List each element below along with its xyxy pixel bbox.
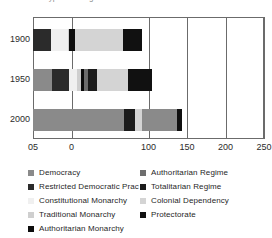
x-axis: 050100150200250 <box>0 142 272 156</box>
legend-item-label: Colonial Dependency <box>151 196 229 205</box>
x-axis-tick-label: 200 <box>218 142 233 152</box>
x-axis-tick-label: 100 <box>141 142 156 152</box>
legend-column-right: Authoritarian RegimeTotalitarian RegimeC… <box>140 166 270 222</box>
legend-item-label: Authoritarian Monarchy <box>39 224 124 233</box>
legend-swatch-icon <box>28 170 34 176</box>
y-axis-tick-label: 1950 <box>0 74 30 84</box>
y-axis-tick-label: 1900 <box>0 34 30 44</box>
legend-item[interactable]: Totalitarian Regime <box>140 180 270 193</box>
bar-segment[interactable] <box>142 109 177 131</box>
bar-segment[interactable] <box>124 109 136 131</box>
legend-item[interactable]: Restricted Democratic Prac <box>28 180 146 193</box>
bar-segment[interactable] <box>88 69 96 91</box>
legend-item-label: Authoritarian Regime <box>151 168 228 177</box>
x-axis-tick-label: 0 <box>69 142 74 152</box>
bar-segment[interactable] <box>51 29 68 51</box>
legend-item[interactable]: Colonial Dependency <box>140 194 270 207</box>
legend-item-label: Traditional Monarchy <box>39 210 115 219</box>
legend-item-label: Restricted Democratic Prac <box>39 182 139 191</box>
chart-figure: Types of Regimes 190019502000 0501001502… <box>0 0 272 238</box>
plot-area <box>33 17 264 139</box>
legend-column-left: DemocracyRestricted Democratic PracConst… <box>28 166 146 236</box>
legend-swatch-icon <box>140 170 146 176</box>
bar-segment[interactable] <box>75 29 123 51</box>
legend-item[interactable]: Authoritarian Regime <box>140 166 270 179</box>
legend-item-label: Democracy <box>39 168 80 177</box>
bar-segment[interactable] <box>52 69 69 91</box>
legend-swatch-icon <box>140 198 146 204</box>
legend-item[interactable]: Democracy <box>28 166 146 179</box>
legend-swatch-icon <box>28 198 34 204</box>
gridline <box>187 17 188 139</box>
bar-segment[interactable] <box>97 69 129 91</box>
legend-item-label: Protectorate <box>151 210 196 219</box>
bar-segment[interactable] <box>33 29 51 51</box>
bar-segment[interactable] <box>69 69 77 91</box>
x-axis-tick-label: 05 <box>28 142 38 152</box>
legend-item-label: Totalitarian Regime <box>151 182 221 191</box>
legend-swatch-icon <box>28 226 34 232</box>
bar-row[interactable] <box>33 69 152 91</box>
y-axis: 190019502000 <box>0 17 30 139</box>
legend-item[interactable]: Authoritarian Monarchy <box>28 222 146 235</box>
legend-item[interactable]: Protectorate <box>140 208 270 221</box>
legend-item[interactable]: Traditional Monarchy <box>28 208 146 221</box>
bar-segment[interactable] <box>123 29 141 51</box>
bar-segment[interactable] <box>177 109 182 131</box>
gridline <box>264 17 265 139</box>
legend-item-label: Constitutional Monarchy <box>39 196 127 205</box>
y-axis-tick-label: 2000 <box>0 114 30 124</box>
legend-item[interactable]: Constitutional Monarchy <box>28 194 146 207</box>
legend-swatch-icon <box>140 184 146 190</box>
gridline <box>226 17 227 139</box>
bar-segment[interactable] <box>33 69 52 91</box>
chart-legend: DemocracyRestricted Democratic PracConst… <box>28 166 272 236</box>
bar-segment[interactable] <box>135 109 142 131</box>
legend-swatch-icon <box>28 212 34 218</box>
x-axis-tick-label: 150 <box>179 142 194 152</box>
bar-segment[interactable] <box>128 69 151 91</box>
bar-row[interactable] <box>33 29 142 51</box>
chart-title: Types of Regimes <box>44 0 234 3</box>
legend-swatch-icon <box>140 212 146 218</box>
bar-segment[interactable] <box>33 109 124 131</box>
x-axis-tick-label: 250 <box>256 142 271 152</box>
legend-swatch-icon <box>28 184 34 190</box>
bar-row[interactable] <box>33 109 182 131</box>
